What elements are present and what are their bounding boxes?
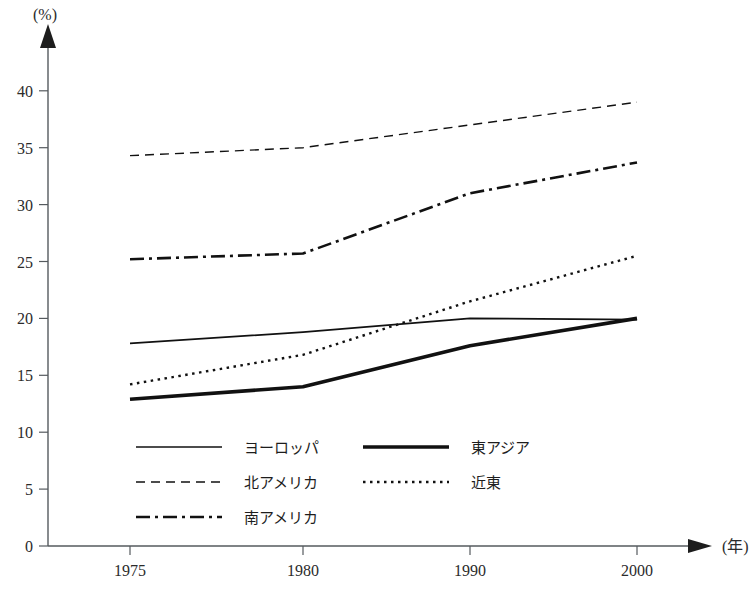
legend-item-label: ヨーロッパ bbox=[244, 439, 319, 456]
y-axis-tick-label: 35 bbox=[17, 140, 33, 157]
x-axis-arrow bbox=[688, 539, 712, 553]
x-axis-tick-label: 1990 bbox=[454, 562, 486, 579]
y-axis-unit-label: (%) bbox=[33, 6, 57, 24]
series-line bbox=[130, 162, 637, 259]
legend-item-label: 南アメリカ bbox=[244, 509, 318, 526]
axes-group: (%)(年) bbox=[33, 6, 749, 556]
x-axis-tick-label: 2000 bbox=[621, 562, 653, 579]
y-axis-tick-label: 5 bbox=[25, 481, 33, 498]
legend-item-label: 東アジア bbox=[471, 439, 530, 456]
x-axis-unit-label: (年) bbox=[722, 538, 749, 556]
legend-item-label: 近東 bbox=[471, 474, 501, 491]
y-axis-tick-label: 40 bbox=[17, 83, 33, 100]
y-axis-tick-label: 25 bbox=[17, 254, 33, 271]
series-line bbox=[130, 318, 637, 399]
y-axis-tick-label: 0 bbox=[25, 538, 33, 555]
chart-container: (%)(年) 05101520253035401975198019902000 … bbox=[0, 0, 752, 594]
legend-item-label: 北アメリカ bbox=[244, 474, 318, 491]
chart-legend: ヨーロッパ東アジア北アメリカ近東南アメリカ bbox=[136, 439, 530, 526]
x-axis-tick-label: 1980 bbox=[287, 562, 319, 579]
x-axis-tick-label: 1975 bbox=[114, 562, 146, 579]
y-axis-arrow bbox=[40, 24, 56, 48]
line-chart: (%)(年) 05101520253035401975198019902000 … bbox=[0, 0, 752, 594]
series-group bbox=[130, 102, 637, 399]
series-line bbox=[130, 102, 637, 155]
y-axis-tick-label: 15 bbox=[17, 367, 33, 384]
y-axis-tick-label: 30 bbox=[17, 197, 33, 214]
y-axis-tick-label: 10 bbox=[17, 424, 33, 441]
y-axis-tick-label: 20 bbox=[17, 310, 33, 327]
